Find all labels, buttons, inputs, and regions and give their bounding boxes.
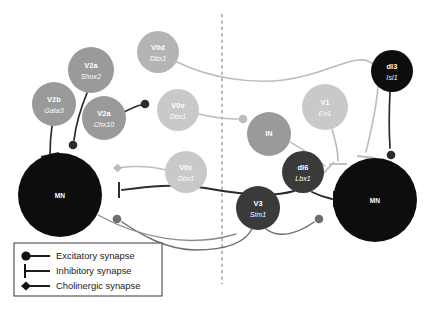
edge-v0c-to-mn-left xyxy=(118,167,166,170)
circuit-diagram: V2b Gata3 V2a Shox2 V2a Chx10 V0d Dbx1 xyxy=(0,0,432,314)
node-v0d[interactable]: V0d Dbx1 xyxy=(137,31,179,73)
node-v0v-circle[interactable] xyxy=(157,89,199,131)
terminal-excitatory-di3 xyxy=(387,151,396,160)
node-di6-circle[interactable] xyxy=(282,151,324,193)
edge-v1-to-mn-right xyxy=(332,129,338,161)
node-di3-circle[interactable] xyxy=(371,50,413,92)
node-v0v-name: V0v xyxy=(171,101,185,110)
legend-excitatory-label: Excitatory synapse xyxy=(56,250,135,261)
node-v1[interactable]: V1 En1 xyxy=(302,84,348,130)
node-v0c-circle[interactable] xyxy=(165,151,207,193)
node-v2a-chx10-name: V2a xyxy=(97,109,111,118)
node-di3-gene: Isl1 xyxy=(386,74,397,81)
node-v0v-gene: Dbx1 xyxy=(170,113,187,120)
node-v3-gene: Sim1 xyxy=(250,211,266,218)
edge-di6-to-mn-right xyxy=(312,192,332,199)
figure-root: V2b Gata3 V2a Shox2 V2a Chx10 V0d Dbx1 xyxy=(0,0,432,314)
node-v2a-shox2-name: V2a xyxy=(84,61,98,70)
node-v0d-gene: Dbx1 xyxy=(150,55,167,62)
node-mn-right[interactable]: MN xyxy=(333,158,417,242)
node-v2a-chx10[interactable]: V2a Chx10 xyxy=(82,96,126,140)
node-v0d-circle[interactable] xyxy=(137,31,179,73)
legend-excitatory-ball-icon xyxy=(21,251,30,260)
node-v1-circle[interactable] xyxy=(302,84,348,130)
terminal-excitatory-v2a-chx10 xyxy=(141,100,150,109)
node-di6-gene: Lbx1 xyxy=(295,175,311,182)
node-di3[interactable]: dI3 Isl1 xyxy=(371,50,413,92)
node-di6[interactable]: dI6 Lbx1 xyxy=(282,151,324,193)
node-v1-gene: En1 xyxy=(319,110,332,117)
node-in[interactable]: IN xyxy=(247,112,291,156)
edge-v2b-to-mn-left xyxy=(50,126,52,155)
edge-v2a-chx10-to-target xyxy=(124,105,141,112)
edge-v0v-crossing xyxy=(199,114,238,119)
node-v2b-name: V2b xyxy=(47,95,61,104)
node-mn-right-name: MN xyxy=(370,197,380,204)
node-v0c-gene: Dbx1 xyxy=(178,175,195,182)
terminal-excitatory-v3-left xyxy=(113,215,122,224)
terminal-excitatory-v3-right xyxy=(315,215,324,224)
legend-cholinergic-label: Cholinergic synapse xyxy=(56,280,140,291)
terminal-excitatory-v2a-shox2 xyxy=(69,141,78,150)
node-v2a-shox2-gene: Shox2 xyxy=(81,73,101,80)
node-v3-name: V3 xyxy=(253,199,262,208)
node-v2a-shox2-circle[interactable] xyxy=(68,47,114,93)
node-v0c-name: V0c xyxy=(179,163,192,172)
legend-inhibitory-label: Inhibitory synapse xyxy=(56,265,132,276)
terminal-excitatory-v0v xyxy=(239,115,248,124)
terminal-inhibitory-v0d xyxy=(357,156,375,158)
node-v1-name: V1 xyxy=(320,98,329,107)
node-v3-circle[interactable] xyxy=(236,186,280,230)
node-v2a-chx10-circle[interactable] xyxy=(82,96,126,140)
node-v0c[interactable]: V0c Dbx1 xyxy=(165,151,207,193)
node-layer: V2b Gata3 V2a Shox2 V2a Chx10 V0d Dbx1 xyxy=(18,31,417,242)
node-v3[interactable]: V3 Sim1 xyxy=(236,186,280,230)
node-di3-name: dI3 xyxy=(387,62,398,71)
node-v2b-circle[interactable] xyxy=(32,82,76,126)
edge-di3-to-mn-right xyxy=(389,92,390,148)
node-di6-name: dI6 xyxy=(298,163,309,172)
legend: Excitatory synapse Inhibitory synapse Ch… xyxy=(14,243,162,296)
node-v2b-gene: Gata3 xyxy=(44,107,64,114)
node-in-name: IN xyxy=(265,129,273,138)
node-v2b[interactable]: V2b Gata3 xyxy=(32,82,76,126)
node-mn-left-name: MN xyxy=(55,192,65,199)
node-mn-left[interactable]: MN xyxy=(18,153,102,237)
node-v0v[interactable]: V0v Dbx1 xyxy=(157,89,199,131)
terminal-cholinergic-v0c xyxy=(113,164,122,172)
node-v2a-shox2[interactable]: V2a Shox2 xyxy=(68,47,114,93)
node-v0d-name: V0d xyxy=(151,43,165,52)
node-v2a-chx10-gene: Chx10 xyxy=(94,121,115,128)
